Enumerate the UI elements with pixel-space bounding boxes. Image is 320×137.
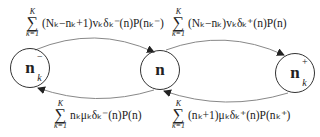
node-n-plus-sup: +: [302, 56, 308, 67]
node-n-minus-base: n: [25, 58, 34, 77]
node-n-minus-sup: −: [37, 51, 43, 62]
formula-top-right: K ∑ k=1 (Nₖ−nₖ)vₖδₖ⁺(n)P(n): [172, 8, 287, 38]
node-n: n: [140, 50, 180, 90]
summation-symbol: K ∑ k=1: [172, 8, 185, 38]
edge-n-to-n-plus-top: [166, 40, 284, 55]
formula-top-left-expr: (Nₖ−nₖ+1)vₖδₖ⁻(n)P(nₖ⁻): [42, 16, 164, 30]
edge-n-minus-to-n-top: [35, 38, 154, 52]
node-n-plus: n + k: [275, 53, 315, 93]
node-n-base: n: [155, 60, 164, 79]
formula-bottom-left: K ∑ k=1 nₖμₖδₖ⁻(n)P(n): [54, 100, 142, 130]
formula-bottom-right: K ∑ k=1 (nₖ+1)μₖδₖ⁺(n)P(nₖ⁺): [172, 100, 290, 130]
node-n-plus-sub: k: [302, 77, 306, 88]
summation-symbol: K ∑ k=1: [26, 8, 39, 38]
formula-bottom-left-expr: nₖμₖδₖ⁻(n)P(n): [70, 108, 142, 122]
summation-symbol: K ∑ k=1: [172, 100, 185, 130]
node-n-minus-sub: k: [37, 72, 41, 83]
formula-top-left: K ∑ k=1 (Nₖ−nₖ+1)vₖδₖ⁻(n)P(nₖ⁻): [26, 8, 164, 38]
formula-top-right-expr: (Nₖ−nₖ)vₖδₖ⁺(n)P(n): [188, 16, 287, 30]
node-n-minus: n − k: [10, 48, 50, 88]
node-n-plus-base: n: [290, 63, 299, 82]
summation-symbol: K ∑ k=1: [54, 100, 67, 130]
formula-bottom-right-expr: (nₖ+1)μₖδₖ⁺(n)P(nₖ⁺): [188, 108, 290, 122]
edge-n-to-n-minus-bottom: [38, 88, 154, 99]
